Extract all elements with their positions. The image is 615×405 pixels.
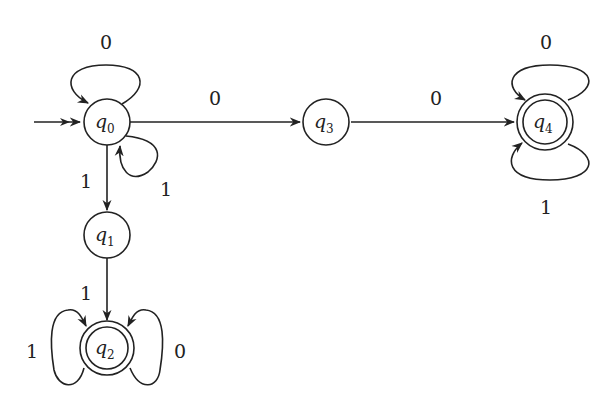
edge-q1-q2: 1	[80, 258, 107, 320]
svg-text:1: 1	[107, 235, 115, 249]
svg-text:0: 0	[107, 122, 115, 136]
edge-q4-q4-0: 0	[512, 31, 589, 100]
svg-text:q: q	[95, 336, 107, 358]
edge-q0-q0-0: 0	[71, 31, 140, 104]
automaton-diagram: 0 1 0 1 1 1 0 0 0 1	[0, 0, 615, 405]
edge-q3-q4: 0	[351, 87, 514, 122]
svg-text:q: q	[314, 110, 326, 132]
state-q0: q 0	[84, 99, 130, 145]
edge-q4-q4-1: 1	[511, 143, 588, 218]
state-q3: q 3	[303, 99, 349, 145]
svg-text:q: q	[95, 110, 107, 132]
state-q4-accepting: q 4	[517, 94, 573, 150]
svg-text:4: 4	[545, 122, 553, 136]
edge-label: 0	[174, 340, 186, 362]
edge-label: 1	[80, 282, 92, 304]
svg-text:q: q	[533, 110, 545, 132]
edge-label: 1	[540, 196, 552, 218]
edge-q2-q2-0: 0	[128, 310, 186, 385]
edge-label: 0	[430, 87, 442, 109]
edge-q0-q3: 0	[129, 87, 300, 122]
state-q1: q 1	[84, 212, 130, 258]
edge-label: 1	[26, 340, 38, 362]
edge-label: 0	[540, 31, 552, 53]
edge-q0-q1: 1	[80, 145, 107, 210]
edge-label: 0	[209, 87, 221, 109]
svg-text:3: 3	[326, 122, 334, 136]
svg-text:q: q	[95, 223, 107, 245]
edge-q2-q2-1: 1	[26, 310, 86, 385]
edge-q0-q0-1: 1	[120, 136, 172, 200]
start-arrow	[34, 118, 80, 126]
state-q2-accepting: q 2	[80, 321, 134, 375]
edge-label: 0	[100, 31, 112, 53]
svg-text:2: 2	[107, 348, 115, 362]
edge-label: 1	[160, 178, 172, 200]
edge-label: 1	[80, 170, 92, 192]
